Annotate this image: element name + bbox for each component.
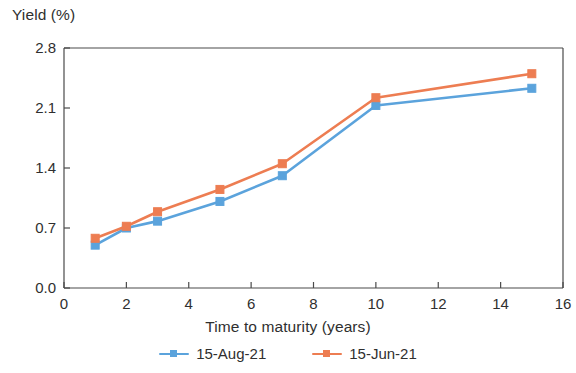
x-tick-label: 10 [356, 295, 396, 312]
series-1-marker [216, 185, 224, 193]
series-0-marker [216, 197, 224, 205]
y-tick-label: 2.8 [10, 39, 56, 56]
series-0-marker [278, 172, 286, 180]
legend-label: 15-Jun-21 [349, 345, 417, 362]
legend-marker-icon [312, 348, 342, 360]
y-tick-label: 0.0 [10, 279, 56, 296]
yield-curve-chart: Yield (%) 0.00.71.42.12.8 0246810121416 … [0, 0, 576, 373]
series-1-marker [372, 94, 380, 102]
x-tick-label: 16 [543, 295, 576, 312]
series-1-marker [154, 208, 162, 216]
y-tick-label: 2.1 [10, 99, 56, 116]
series-0-marker [372, 101, 380, 109]
legend-label: 15-Aug-21 [196, 345, 266, 362]
x-tick-label: 6 [231, 295, 271, 312]
legend-item-0[interactable]: 15-Aug-21 [159, 345, 266, 362]
series-1-marker [122, 222, 130, 230]
x-tick-label: 4 [169, 295, 209, 312]
y-tick-label: 1.4 [10, 159, 56, 176]
x-tick-label: 2 [106, 295, 146, 312]
series-1-marker [278, 160, 286, 168]
y-tick-label: 0.7 [10, 219, 56, 236]
chart-legend: 15-Aug-2115-Jun-21 [0, 345, 576, 362]
series-1-marker [91, 234, 99, 242]
x-tick-label: 0 [44, 295, 84, 312]
series-0-marker [154, 217, 162, 225]
x-tick-label: 12 [418, 295, 458, 312]
series-0-marker [528, 84, 536, 92]
series-1-marker [528, 70, 536, 78]
x-tick-label: 14 [481, 295, 521, 312]
x-tick-label: 8 [294, 295, 334, 312]
legend-marker-icon [159, 348, 189, 360]
x-axis-title: Time to maturity (years) [0, 318, 576, 336]
legend-item-1[interactable]: 15-Jun-21 [312, 345, 417, 362]
